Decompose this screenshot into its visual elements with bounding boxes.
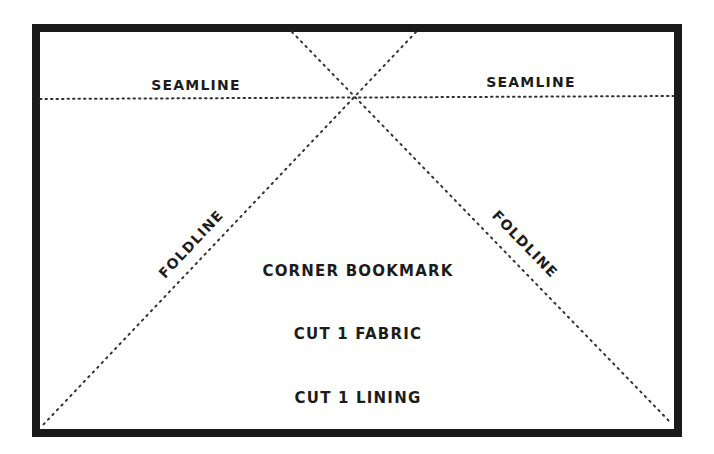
foldline-right (292, 32, 670, 422)
seamline-label-right: SEAMLINE (486, 74, 575, 90)
cut-lining-instruction: CUT 1 LINING (295, 389, 422, 407)
pattern-lines (0, 0, 714, 454)
piece-title: CORNER BOOKMARK (262, 262, 453, 280)
cutting-border (36, 28, 678, 433)
seamline-label-left: SEAMLINE (151, 77, 240, 93)
cut-fabric-instruction: CUT 1 FABRIC (294, 325, 422, 343)
pattern-diagram: SEAMLINE SEAMLINE FOLDLINE FOLDLINE CORN… (0, 0, 714, 454)
